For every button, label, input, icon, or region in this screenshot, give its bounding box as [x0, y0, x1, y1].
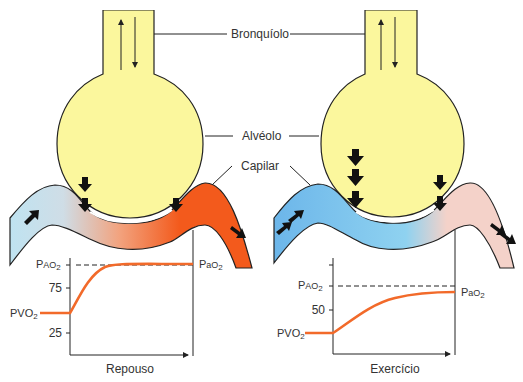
label-bronchiole: Bronquíolo [231, 27, 289, 41]
graph-rest [40, 230, 193, 356]
label-PVO2-exercise: PVO2 [277, 327, 305, 341]
y-tick-25: 25 [32, 326, 62, 340]
label-PVO2-rest: PVO2 [10, 307, 38, 321]
xlabel-rest: Repouso [100, 362, 160, 376]
label-PAO2-rest: PAO2 [36, 258, 61, 272]
alveolus-rest [57, 0, 203, 222]
y-tick-75: 75 [32, 281, 62, 295]
alveolus-exercise [321, 0, 464, 222]
label-capillary: Capilar [241, 159, 279, 173]
gas-exchange-diagram: Bronquíolo Alvéolo Capilar PAO2 75 PVO2 … [0, 0, 523, 382]
label-PAO2-exercise: PAO2 [298, 279, 323, 293]
y-tick-50: 50 [295, 303, 325, 317]
label-PaO2-rest: PaO2 [199, 258, 223, 272]
label-PaO2-exercise: PaO2 [461, 286, 485, 300]
xlabel-exercise: Exercício [360, 362, 430, 376]
label-alveolus: Alvéolo [242, 129, 281, 143]
